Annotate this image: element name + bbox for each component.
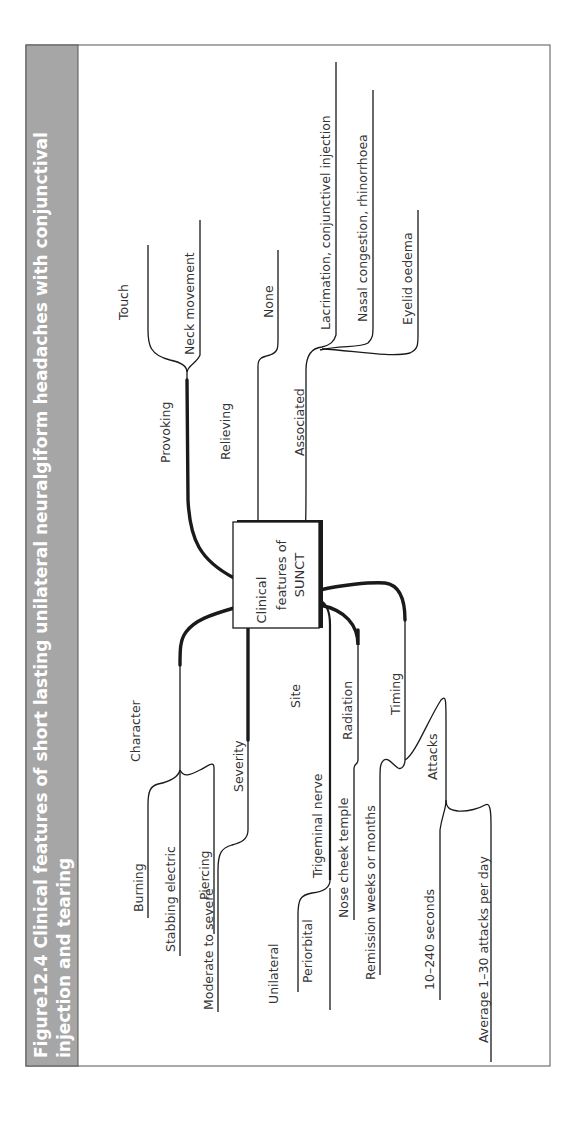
label-attacks: Attacks <box>425 734 440 780</box>
label-stabbing-electric: Stabbing electric <box>163 846 178 952</box>
center-label-line3: SUNCT <box>292 553 307 598</box>
label-radiation: Radiation <box>340 681 355 740</box>
label-10-240-seconds: 10–240 seconds <box>422 889 437 990</box>
label-associated: Associated <box>292 388 307 456</box>
label-none: None <box>261 285 276 318</box>
label-unilateral: Unilateral <box>266 943 281 1004</box>
label-moderate-to-severe: Moderate to severe <box>201 888 216 1010</box>
label-nose-cheek-temple: Nose cheek temple <box>336 797 351 918</box>
label-severity: Severity <box>231 740 246 792</box>
label-site: Site <box>288 684 303 708</box>
center-label-line1: Clinical <box>254 577 269 624</box>
center-label-line2: features of <box>274 539 289 610</box>
label-trigeminal-nerve: Trigeminal nerve <box>310 773 325 879</box>
label-neck-movement: Neck movement <box>182 252 197 355</box>
label-periorbital: Periorbital <box>300 919 315 983</box>
label-remission: Remission weeks or months <box>363 805 378 980</box>
label-average-attacks: Average 1–30 attacks per day <box>476 856 491 1043</box>
figure-title-line1: Figure12.4 Clinical features of short la… <box>31 132 51 1058</box>
label-eyelid: Eyelid oedema <box>400 232 415 325</box>
figure-title-line2: injection and tearing <box>54 858 74 1058</box>
label-timing: Timing <box>388 673 403 716</box>
label-character: Character <box>128 699 143 762</box>
label-burning: Burning <box>131 863 146 912</box>
mind-map-figure: Figure12.4 Clinical features of short la… <box>0 0 572 1122</box>
label-nasal: Nasal congestion, rhinorrhoea <box>355 134 370 322</box>
label-lacrimation: Lacrimation, conjunctivel injection <box>318 115 333 330</box>
label-touch: Touch <box>116 284 131 321</box>
label-provoking: Provoking <box>158 402 173 463</box>
label-relieving: Relieving <box>218 403 233 460</box>
